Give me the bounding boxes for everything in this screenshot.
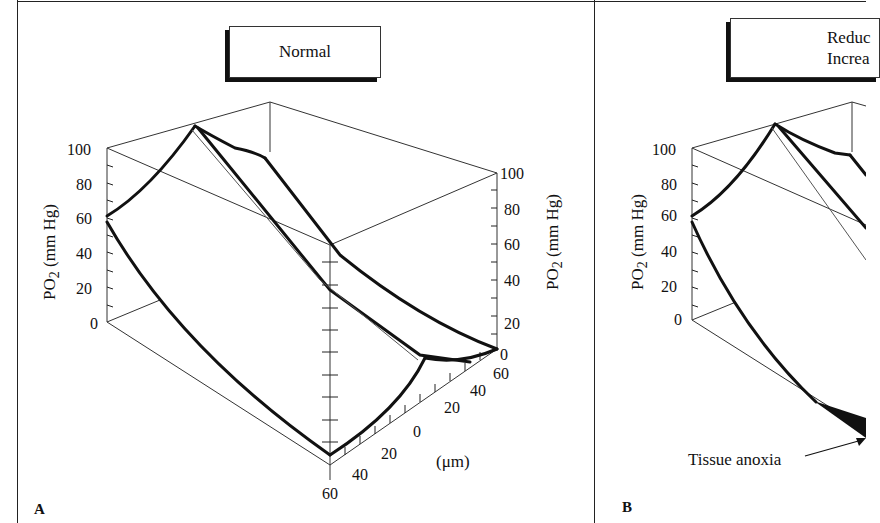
a-dtick-20-far: 20 xyxy=(444,400,460,416)
a-rtick-100: 100 xyxy=(500,166,524,182)
a-rtick-0: 0 xyxy=(500,347,508,363)
a-ytick-40: 40 xyxy=(76,246,92,262)
a-depth-unit: (μm) xyxy=(436,454,470,470)
a-rtick-60: 60 xyxy=(504,237,520,253)
a-rtick-40: 40 xyxy=(504,273,520,289)
panel-a-title: Normal xyxy=(229,26,381,78)
a-rtick-80: 80 xyxy=(504,202,520,218)
a-dtick-40-near: 40 xyxy=(352,467,368,483)
b-y-axis-label: PO xyxy=(628,268,647,290)
a-ytick-20: 20 xyxy=(76,281,92,297)
a-y-axis-title: PO2 (mm Hg) xyxy=(40,204,63,300)
tissue-anoxia-label: Tissue anoxia xyxy=(688,452,781,468)
a-ytick-80: 80 xyxy=(76,177,92,193)
b-ytick-60: 60 xyxy=(661,208,677,224)
a-right-axis-label: PO xyxy=(543,268,562,290)
a-y-axis-unit: (mm Hg) xyxy=(40,204,59,271)
panel-a-letter: A xyxy=(34,501,45,518)
a-dtick-40-far: 40 xyxy=(470,383,486,399)
a-rtick-20: 20 xyxy=(504,316,520,332)
panel-b-title-line2: Increa xyxy=(827,48,879,69)
panel-a-title-text: Normal xyxy=(279,42,331,61)
b-y-axis-sub: 2 xyxy=(634,261,650,268)
a-right-axis-sub: 2 xyxy=(549,261,565,268)
a-right-axis-title: PO2 (mm Hg) xyxy=(543,194,566,290)
a-ytick-0: 0 xyxy=(90,316,98,332)
panel-a-box xyxy=(107,102,497,480)
a-dtick-0: 0 xyxy=(413,424,421,440)
b-ytick-100: 100 xyxy=(652,142,676,158)
b-ytick-20: 20 xyxy=(661,279,677,295)
panel-b-letter: B xyxy=(622,499,632,516)
a-ytick-100: 100 xyxy=(67,142,91,158)
a-right-axis-unit: (mm Hg) xyxy=(543,194,562,261)
b-ytick-0: 0 xyxy=(674,312,682,328)
panel-b-title: Reduc Increa xyxy=(730,18,880,78)
a-dtick-60-near: 60 xyxy=(322,486,338,502)
a-dtick-60-far: 60 xyxy=(493,366,509,382)
b-ytick-40: 40 xyxy=(661,244,677,260)
a-dtick-20-near: 20 xyxy=(381,446,397,462)
a-y-axis-sub: 2 xyxy=(46,271,62,278)
tissue-anoxia-region xyxy=(814,401,866,438)
b-y-axis-unit: (mm Hg) xyxy=(628,194,647,261)
b-ytick-80: 80 xyxy=(661,177,677,193)
a-ytick-60: 60 xyxy=(76,211,92,227)
b-y-axis-title: PO2 (mm Hg) xyxy=(628,194,651,290)
panel-b-title-line1: Reduc xyxy=(827,27,879,48)
a-y-axis-label: PO xyxy=(40,278,59,300)
